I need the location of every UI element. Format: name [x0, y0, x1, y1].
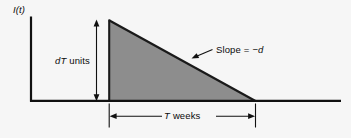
slope-annotation-label: Slope=−d — [216, 45, 264, 55]
height-label: dTunits — [55, 56, 90, 66]
slope-annotation-value: −d — [252, 44, 263, 55]
y-axis-label: I(t) — [13, 5, 25, 15]
figure-container: I(t) dTunits Slope=−d Tweeks — [0, 0, 351, 138]
width-label-unit: weeks — [173, 110, 200, 121]
height-label-symbol: dT — [55, 55, 66, 66]
height-label-unit: units — [69, 55, 90, 66]
width-label-symbol: T — [164, 110, 170, 121]
width-label: Tweeks — [164, 111, 200, 121]
slope-annotation-equals: = — [244, 44, 250, 55]
slope-annotation-word: Slope — [216, 44, 241, 55]
y-axis-label-text: I(t) — [13, 4, 25, 15]
